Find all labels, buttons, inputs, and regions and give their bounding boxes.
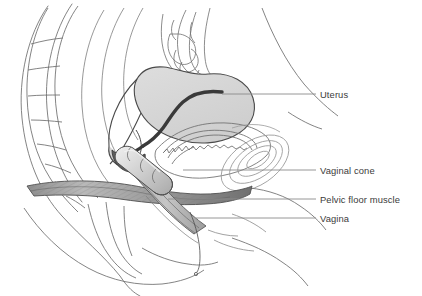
- label-vaginal-cone: Vaginal cone: [320, 165, 375, 176]
- label-uterus: Uterus: [320, 89, 348, 100]
- pelvic-anatomy-diagram: Uterus Vaginal cone Pelvic floor muscle …: [0, 0, 422, 296]
- label-pelvic-floor-muscle: Pelvic floor muscle: [320, 194, 400, 205]
- label-vagina: Vagina: [320, 213, 350, 224]
